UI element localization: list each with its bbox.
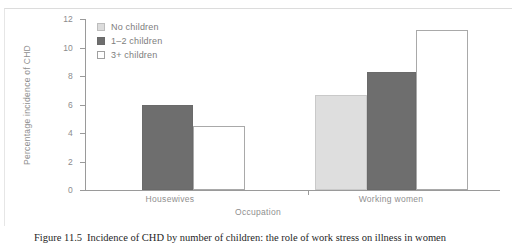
legend-item-1-2-children: 1–2 children (97, 34, 162, 47)
y-axis-title: Percentage incidence of CHD (20, 19, 34, 190)
x-axis-title: Occupation (0, 207, 516, 217)
y-tick-label-0: 0 (68, 185, 73, 195)
x-tick-group-separator (308, 190, 309, 195)
y-tick-label-12: 12 (63, 14, 73, 24)
y-tick-0: 0 (80, 190, 85, 191)
figure-caption: Figure 11.5Incidence of CHD by number of… (0, 231, 516, 245)
bar-working-women-1-2-children (367, 72, 416, 190)
y-axis-title-text: Percentage incidence of CHD (22, 44, 32, 164)
y-tick-12: 12 (80, 19, 85, 20)
figure-caption-text: Incidence of CHD by number of children: … (87, 232, 446, 243)
chart-legend: No children 1–2 children 3+ children (97, 20, 162, 62)
x-category-label-housewives: Housewives (146, 194, 195, 204)
x-axis-line (85, 190, 500, 191)
y-tick-label-10: 10 (63, 43, 73, 53)
y-tick-8: 8 (80, 76, 85, 77)
legend-label-3plus-children: 3+ children (111, 50, 157, 60)
y-tick-2: 2 (80, 162, 85, 163)
legend-item-3plus-children: 3+ children (97, 48, 162, 61)
legend-item-no-children: No children (97, 20, 162, 33)
y-tick-label-2: 2 (68, 157, 73, 167)
figure-caption-label: Figure 11.5 (34, 232, 82, 243)
legend-swatch-3plus-children-icon (97, 51, 105, 59)
bar-working-women-3plus-children (416, 30, 468, 190)
legend-label-no-children: No children (111, 22, 159, 32)
bar-housewives-3plus-children (193, 126, 245, 190)
y-tick-label-4: 4 (68, 128, 73, 138)
y-tick-label-6: 6 (68, 100, 73, 110)
bar-working-women-no-children (315, 95, 367, 191)
x-category-label-working-women: Working women (359, 194, 424, 204)
chart-figure: Percentage incidence of CHD 0 2 4 6 8 (0, 0, 516, 226)
y-axis-line (85, 19, 86, 190)
legend-swatch-no-children-icon (97, 23, 105, 31)
bar-housewives-1-2-children (142, 105, 193, 191)
figure-page: Percentage incidence of CHD 0 2 4 6 8 (0, 0, 516, 252)
legend-label-1-2-children: 1–2 children (111, 36, 162, 46)
legend-swatch-1-2-children-icon (97, 37, 105, 45)
y-tick-4: 4 (80, 133, 85, 134)
y-tick-10: 10 (80, 48, 85, 49)
y-tick-6: 6 (80, 105, 85, 106)
y-tick-label-8: 8 (68, 71, 73, 81)
